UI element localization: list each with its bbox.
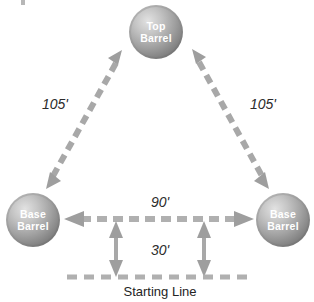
- dimension-label-start-to-base: 30': [151, 242, 171, 258]
- right-diagonal-arrowhead-top: [192, 49, 206, 64]
- base-to-base-arrowhead-right: [234, 211, 254, 227]
- barrel-racing-diagram: Top Barrel Base Barrel Base Barrel 105' …: [0, 0, 314, 302]
- right-vertical-arrowhead-top: [197, 221, 211, 238]
- dimension-label-right-diagonal: 105': [250, 96, 277, 112]
- right-base-barrel-label-line1: Base: [270, 208, 296, 220]
- starting-line-label: Starting Line: [124, 284, 197, 299]
- left-diagonal-dashed-line: [53, 63, 116, 176]
- barrel-base-left[interactable]: Base Barrel: [6, 193, 60, 247]
- top-barrel-label-line2: Barrel: [140, 32, 172, 44]
- measurement-arrow-right-diagonal: [192, 49, 269, 189]
- left-vertical-arrowhead-top: [109, 221, 123, 238]
- right-base-barrel-label-line2: Barrel: [267, 220, 299, 232]
- top-barrel-label-line1: Top: [146, 20, 165, 32]
- measurement-arrow-start-to-base-left: [109, 221, 123, 277]
- scan-artifact: [21, 0, 25, 5]
- barrel-top[interactable]: Top Barrel: [129, 5, 183, 59]
- measurement-arrow-base-to-base: [64, 211, 254, 227]
- right-diagonal-dashed-line: [199, 62, 262, 176]
- dimension-label-left-diagonal: 105': [42, 96, 69, 112]
- base-to-base-arrowhead-left: [64, 211, 84, 227]
- left-diagonal-arrowhead-top: [108, 50, 122, 65]
- measurement-arrow-left-diagonal: [46, 50, 122, 189]
- measurement-arrow-start-to-base-right: [197, 221, 211, 277]
- right-vertical-arrowhead-bottom: [197, 260, 211, 277]
- left-base-barrel-label-line2: Barrel: [17, 220, 49, 232]
- left-base-barrel-label-line1: Base: [20, 208, 46, 220]
- diagram-canvas: Top Barrel Base Barrel Base Barrel 105' …: [0, 0, 314, 302]
- left-vertical-arrowhead-bottom: [109, 260, 123, 277]
- barrel-base-right[interactable]: Base Barrel: [256, 193, 310, 247]
- dimension-label-base-to-base: 90': [151, 194, 171, 210]
